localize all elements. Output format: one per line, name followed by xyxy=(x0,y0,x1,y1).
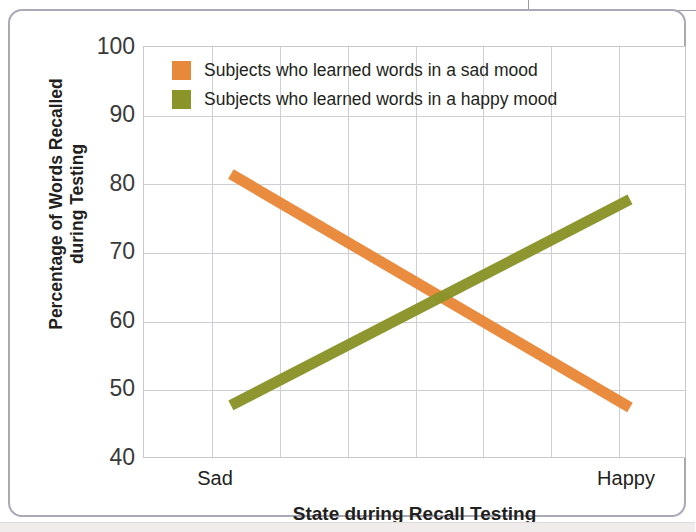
y-tick-80: 80 xyxy=(77,172,135,195)
y-tick-70: 70 xyxy=(77,240,135,263)
y-axis-tick-labels: 100 90 80 70 60 50 40 xyxy=(73,46,135,458)
y-tick-60: 60 xyxy=(77,309,135,332)
plot-area: Subjects who learned words in a sad mood… xyxy=(143,46,686,458)
legend-label-happy-mood: Subjects who learned words in a happy mo… xyxy=(204,90,557,109)
legend-swatch-sad-mood xyxy=(172,61,191,80)
y-tick-40: 40 xyxy=(77,446,135,469)
legend-item-sad-mood: Subjects who learned words in a sad mood xyxy=(172,58,557,82)
x-tick-sad: Sad xyxy=(155,467,275,489)
x-tick-happy: Happy xyxy=(566,467,686,489)
legend: Subjects who learned words in a sad mood… xyxy=(172,58,557,111)
figure-frame: Percentage of Words Recalled during Test… xyxy=(8,9,686,517)
y-tick-100: 100 xyxy=(77,35,135,58)
y-tick-90: 90 xyxy=(77,103,135,126)
y-axis-title-line-1: Percentage of Words Recalled xyxy=(46,54,67,354)
y-tick-50: 50 xyxy=(77,377,135,400)
legend-item-happy-mood: Subjects who learned words in a happy mo… xyxy=(172,87,557,111)
scan-edge-artifact-bottom xyxy=(0,522,695,532)
legend-swatch-happy-mood xyxy=(172,90,191,109)
legend-label-sad-mood: Subjects who learned words in a sad mood xyxy=(204,61,538,80)
